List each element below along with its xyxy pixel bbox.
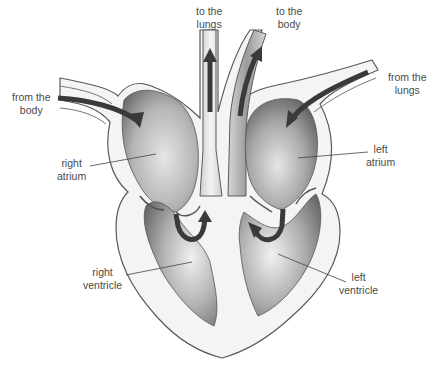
label-from-the-lungs: from the lungs (388, 71, 427, 97)
heart-diagram (0, 0, 437, 369)
label-left-ventricle: left ventricle (339, 271, 378, 297)
label-left-atrium: left atrium (366, 143, 395, 169)
label-to-the-lungs: to the lungs (196, 5, 222, 31)
label-right-atrium: right atrium (57, 157, 86, 183)
label-from-the-body: from the body (12, 91, 51, 117)
label-to-the-body: to the body (276, 5, 302, 31)
label-right-ventricle: right ventricle (83, 266, 122, 292)
